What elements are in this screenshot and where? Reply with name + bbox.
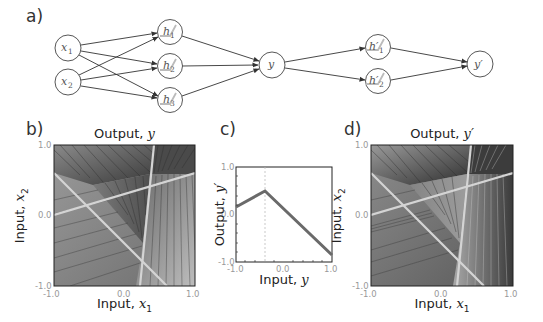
network-diagram: x1 x2 h1 h2 h3 y h′1 h′2 y′: [0, 0, 543, 130]
panel-d-ytick: 0.0: [355, 210, 369, 220]
node-y: y: [259, 52, 285, 78]
svg-text:1: 1: [170, 31, 175, 40]
svg-text:x: x: [61, 41, 68, 54]
function-line: [236, 191, 332, 255]
svg-text:2: 2: [379, 80, 384, 89]
panel-c-label: c): [220, 119, 236, 139]
relu-joint-lines: [54, 145, 195, 286]
svg-text:h′: h′: [369, 74, 379, 87]
svg-text:2: 2: [68, 81, 73, 90]
relu-joint-lines: [371, 145, 513, 286]
node-x2: x2: [55, 69, 81, 95]
svg-text:2: 2: [170, 65, 175, 74]
panel-c-xlabel: Input, y: [236, 272, 332, 287]
svg-text:1: 1: [68, 47, 73, 56]
node-x1: x1: [55, 35, 81, 61]
node-h2: h2: [158, 54, 183, 79]
panel-b-title: Output, y: [54, 126, 195, 141]
panel-d-ylabel: Input, x2: [329, 171, 347, 261]
panel-c-ylabel: Output, y′: [212, 170, 227, 260]
node-yp: y′: [467, 51, 493, 77]
panel-d-xlabel: Input, x1: [371, 296, 513, 314]
svg-text:h′: h′: [369, 40, 379, 53]
panel-b-ytick: 1.0: [38, 140, 52, 150]
panel-d-ytick: 1.0: [355, 140, 369, 150]
node-hp1: h′1: [366, 35, 391, 60]
node-hp2: h′2: [366, 69, 391, 94]
panel-d-label: d): [344, 119, 361, 139]
panel-b-ylabel: Input, x2: [12, 171, 30, 261]
svg-text:y: y: [267, 58, 275, 71]
svg-text:y′: y′: [473, 58, 483, 71]
panel-b-ytick: 0.0: [38, 210, 52, 220]
panel-d-title: Output, y′: [371, 126, 513, 141]
svg-text:x: x: [61, 75, 68, 88]
node-h1: h1: [158, 20, 183, 45]
svg-text:3: 3: [170, 99, 175, 108]
node-h3: h3: [158, 88, 183, 113]
panel-b-xlabel: Input, x1: [54, 296, 195, 314]
panel-b-label: b): [26, 119, 43, 139]
svg-text:1: 1: [379, 46, 384, 55]
